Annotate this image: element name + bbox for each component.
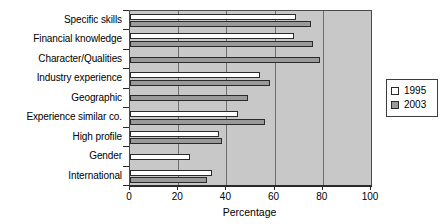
x-tick-label: 80 [307, 191, 337, 202]
bar-2003 [130, 41, 313, 47]
bar-2003 [130, 80, 270, 86]
x-axis-title: Percentage [129, 206, 370, 218]
x-tick-label: 0 [114, 191, 144, 202]
bar-2003 [130, 57, 320, 63]
y-tick [123, 88, 129, 89]
category-row [130, 30, 371, 49]
x-tick-80 [322, 185, 323, 190]
category-label: Industry experience [37, 68, 122, 87]
x-axis-line [129, 185, 372, 187]
x-tick-100 [370, 185, 371, 190]
bar-1995 [130, 131, 219, 137]
bar-1995 [130, 33, 294, 39]
x-tick-label: 40 [210, 191, 240, 202]
y-tick [123, 166, 129, 167]
category-label: International [68, 166, 122, 185]
y-tick [123, 146, 129, 147]
y-tick [123, 107, 129, 108]
bar-chart: Specific skillsFinancial knowledgeCharac… [0, 0, 447, 224]
bar-2003 [130, 119, 265, 125]
x-tick-label: 100 [355, 191, 385, 202]
category-label: Financial knowledge [33, 29, 122, 48]
legend-entry-1995[interactable]: 1995 [391, 84, 433, 98]
legend-entry-2003[interactable]: 2003 [391, 98, 433, 112]
bar-1995 [130, 170, 212, 176]
category-row [130, 69, 371, 88]
x-tick-0 [129, 185, 130, 190]
chart-legend: 1995 2003 [386, 79, 438, 117]
bar-2003 [130, 138, 222, 144]
category-row [130, 108, 371, 127]
category-row [130, 11, 371, 30]
bar-2003 [130, 177, 207, 183]
category-label: Geographic [71, 88, 122, 107]
category-row [130, 89, 371, 108]
category-label: Specific skills [64, 10, 122, 29]
legend-label-2003: 2003 [404, 100, 426, 110]
legend-swatch-2003-icon [391, 101, 399, 109]
bar-2003 [130, 95, 248, 101]
bar-1995 [130, 154, 190, 160]
category-label: Character/Qualities [38, 49, 122, 68]
bar-1995 [130, 111, 238, 117]
plot-area [129, 10, 372, 187]
y-tick [123, 185, 129, 186]
category-row [130, 50, 371, 69]
y-tick [123, 49, 129, 50]
category-row [130, 147, 371, 166]
y-tick [123, 29, 129, 30]
category-label: Gender [89, 146, 122, 165]
legend-label-1995: 1995 [404, 86, 426, 96]
x-tick-20 [177, 185, 178, 190]
category-row [130, 128, 371, 147]
y-tick [123, 10, 129, 11]
category-axis: Specific skillsFinancial knowledgeCharac… [0, 10, 126, 185]
x-tick-60 [274, 185, 275, 190]
legend-swatch-1995-icon [391, 87, 399, 95]
bar-1995 [130, 14, 296, 20]
y-tick [123, 127, 129, 128]
x-tick-40 [225, 185, 226, 190]
category-label: High profile [73, 127, 122, 146]
bar-2003 [130, 21, 311, 27]
x-tick-label: 20 [162, 191, 192, 202]
bar-1995 [130, 72, 260, 78]
category-label: Experience similar co. [26, 107, 122, 126]
y-tick [123, 68, 129, 69]
category-row [130, 167, 371, 186]
x-tick-label: 60 [259, 191, 289, 202]
